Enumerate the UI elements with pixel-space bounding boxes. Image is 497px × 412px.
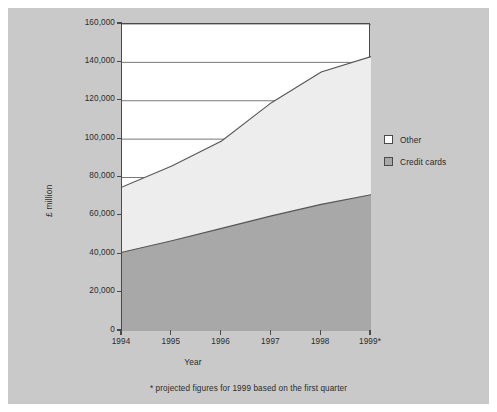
stacked-area-svg: [122, 24, 371, 331]
y-tick-label: 0: [10, 325, 115, 334]
y-axis-title: £ million: [44, 158, 58, 244]
chart-legend: Other Credit cards: [384, 134, 484, 178]
legend-item-credit-cards: Credit cards: [384, 156, 484, 167]
x-tick-label: 1999*: [348, 337, 392, 346]
x-axis-title: Year: [8, 357, 378, 367]
x-tick-mark: [220, 330, 221, 335]
x-tick-mark: [120, 330, 121, 335]
x-tick-mark: [270, 330, 271, 335]
y-tick-label: 80,000: [10, 171, 115, 180]
legend-label-credit-cards: Credit cards: [400, 157, 446, 167]
x-tick-mark: [369, 330, 370, 335]
legend-label-other: Other: [400, 135, 421, 145]
chart-footnote: * projected figures for 1999 based on th…: [8, 384, 489, 393]
y-tick-label: 40,000: [10, 248, 115, 257]
y-tick-label: 120,000: [10, 94, 115, 103]
y-tick-label: 100,000: [10, 133, 115, 142]
x-tick-label: 1998: [298, 337, 342, 346]
x-tick-label: 1995: [149, 337, 193, 346]
legend-swatch-credit-cards: [384, 157, 393, 166]
x-tick-label: 1997: [248, 337, 292, 346]
y-tick-label: 160,000: [10, 18, 115, 27]
chart-figure: 020,00040,00060,00080,000100,000120,0001…: [8, 8, 489, 404]
y-tick-label: 140,000: [10, 56, 115, 65]
y-tick-label: 20,000: [10, 286, 115, 295]
y-tick-label: 60,000: [10, 209, 115, 218]
x-tick-label: 1996: [199, 337, 243, 346]
legend-swatch-other: [384, 135, 393, 144]
legend-item-other: Other: [384, 134, 484, 145]
x-tick-mark: [320, 330, 321, 335]
x-tick-mark: [170, 330, 171, 335]
plot-area: [121, 23, 370, 330]
x-tick-label: 1994: [99, 337, 143, 346]
